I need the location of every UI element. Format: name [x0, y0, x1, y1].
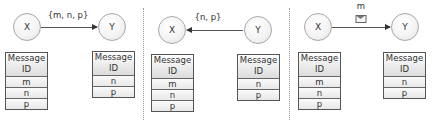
edge-x-to-y [332, 27, 390, 28]
table-row: p [384, 87, 425, 98]
header-line: ID [299, 64, 340, 75]
node-x: X [304, 13, 332, 41]
node-y: Y [391, 13, 419, 41]
panel-3: X Y m Message ID m n p Message ID n p [0, 0, 434, 130]
table-header: Message ID [299, 53, 340, 76]
edge-label: m [357, 1, 365, 11]
table-row: n [384, 76, 425, 87]
header-line: Message [384, 53, 425, 64]
envelope-icon [356, 15, 367, 23]
message-table-y: Message ID n p [383, 52, 426, 99]
table-row: m [299, 76, 340, 87]
message-table-x: Message ID m n p [298, 52, 341, 110]
table-header: Message ID [384, 53, 425, 76]
header-line: Message [299, 53, 340, 64]
header-line: ID [384, 64, 425, 75]
table-row: n [299, 87, 340, 98]
table-row: p [299, 98, 340, 109]
